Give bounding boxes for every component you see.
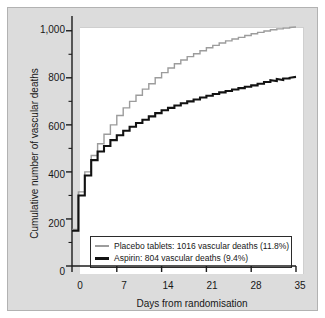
chart-svg bbox=[0, 0, 325, 318]
figure-container: 1,000 800 600 400 200 0 0 7 14 21 28 35 … bbox=[0, 0, 325, 318]
axis-lines bbox=[72, 16, 296, 266]
series-lines bbox=[72, 27, 296, 231]
